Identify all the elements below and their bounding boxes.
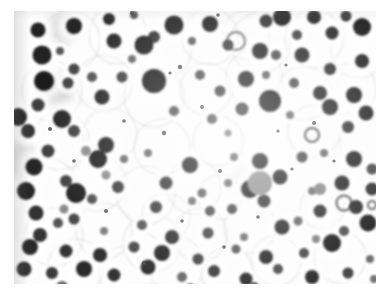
cell-nucleus <box>339 226 349 236</box>
cell-nucleus <box>312 235 320 243</box>
cell-nucleus <box>343 268 354 279</box>
cell-nucleus <box>335 176 350 191</box>
cell-nucleus <box>349 200 363 214</box>
cell-nucleus <box>60 245 73 258</box>
cell-nucleus <box>87 72 97 82</box>
cell-nucleus <box>236 103 249 116</box>
cell-nucleus <box>89 150 107 168</box>
micro-speck <box>218 169 222 173</box>
cell-nucleus <box>294 217 303 226</box>
cell-nucleus <box>100 227 108 235</box>
cell-nucleus <box>17 182 35 200</box>
cell-nucleus <box>320 149 328 157</box>
cell-nucleus <box>81 146 91 156</box>
cell-nucleus <box>188 197 196 205</box>
cell-nucleus <box>46 267 58 279</box>
cell-nucleus <box>165 230 179 244</box>
cell-nucleus <box>295 48 310 63</box>
cell-nucleus <box>31 23 46 38</box>
micrograph-image <box>14 11 376 284</box>
cell-nucleus <box>76 261 92 277</box>
cell-nucleus <box>120 155 128 163</box>
cell-nucleus <box>195 70 205 80</box>
cell-nucleus <box>223 40 234 51</box>
cell-nucleus <box>188 37 196 45</box>
micro-speck <box>256 215 260 219</box>
cell-nucleus <box>21 124 35 138</box>
cell-nucleus <box>165 16 184 35</box>
cell-nucleus <box>275 220 290 235</box>
cell-nucleus <box>323 234 341 252</box>
micro-speck <box>332 159 335 162</box>
cell-nucleus <box>129 242 140 253</box>
cell-nucleus <box>34 71 54 91</box>
cell-nucleus <box>232 245 241 254</box>
cell-nucleus <box>137 220 147 230</box>
cell-nucleus <box>169 106 179 116</box>
screenshot-root <box>0 0 388 295</box>
cell-nucleus <box>273 170 288 185</box>
cell-nucleus <box>69 214 80 225</box>
cell-nucleus <box>69 64 80 75</box>
cell-nucleus <box>193 254 204 265</box>
cell-nucleus <box>258 195 271 208</box>
cell-nucleus <box>26 159 43 176</box>
micro-speck <box>276 129 279 132</box>
micro-speck <box>290 167 293 170</box>
micro-speck <box>216 13 220 17</box>
cell-nucleus <box>198 189 207 198</box>
cell-nucleus <box>68 125 80 137</box>
cell-nucleus <box>297 152 308 163</box>
cell-nucleus <box>182 157 198 173</box>
cell-nucleus <box>135 36 154 55</box>
cell-nucleus <box>32 99 45 112</box>
cell-nucleus <box>346 151 362 167</box>
cell-nucleus <box>112 181 124 193</box>
cell-nucleus <box>292 30 302 40</box>
cell-nucleus <box>142 69 166 93</box>
cell-nucleus <box>22 239 38 255</box>
cell-nucleus <box>353 18 371 36</box>
cell-nucleus <box>260 15 273 28</box>
cell-nucleus <box>238 71 254 87</box>
cell-nucleus <box>103 13 115 25</box>
cell-nucleus <box>252 153 268 169</box>
cell-nucleus <box>341 11 352 22</box>
cell-nucleus <box>366 255 374 263</box>
cell-nucleus <box>60 205 69 214</box>
cell-nucleus <box>108 269 121 282</box>
cell-nucleus <box>259 90 281 112</box>
cell-nucleus <box>355 54 369 68</box>
cell-nucleus <box>314 183 326 195</box>
cell-nucleus <box>66 18 82 34</box>
cell-nucleus <box>53 110 71 128</box>
micro-speck <box>178 65 182 69</box>
cell-nucleus <box>259 250 273 264</box>
cell-nucleus <box>215 86 226 97</box>
cell-nucleus <box>342 121 354 133</box>
cell-nucleus <box>224 179 232 187</box>
cell-nucleus <box>107 34 122 49</box>
cell-nucleus <box>324 63 336 75</box>
micro-speck <box>142 261 146 265</box>
cell-nucleus <box>273 264 283 274</box>
cell-nucleus <box>286 111 294 119</box>
cell-nucleus <box>346 87 362 103</box>
micro-speck <box>312 121 316 125</box>
cell-nucleus <box>93 248 107 262</box>
micro-speck <box>72 159 76 163</box>
cell-nucleus <box>17 262 32 277</box>
cell-nucleus <box>42 145 55 158</box>
cell-nucleus <box>271 50 281 60</box>
cell-nucleus <box>177 272 187 282</box>
cell-nucleus <box>208 265 220 277</box>
cell-nucleus <box>56 47 64 55</box>
cell-nucleus <box>117 72 128 83</box>
cell-nucleus <box>248 171 272 195</box>
cell-nucleus <box>203 228 214 239</box>
micro-speck <box>168 71 171 74</box>
cell-nucleus <box>240 233 248 241</box>
cell-nucleus <box>205 206 215 216</box>
cell-nucleus <box>313 86 327 100</box>
micro-speck <box>162 131 166 135</box>
